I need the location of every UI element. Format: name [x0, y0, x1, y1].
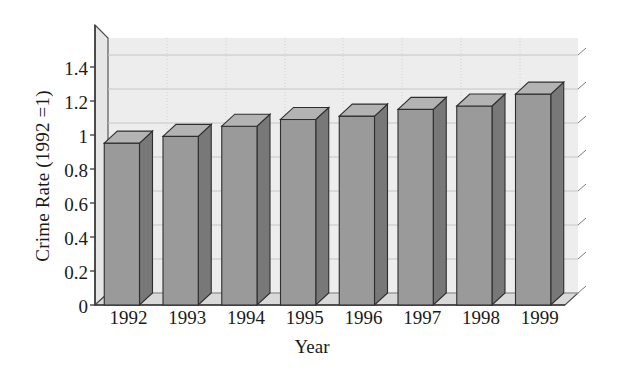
bar-side-face [433, 97, 446, 305]
bar-front-face [398, 109, 433, 305]
bar-front-face [163, 136, 198, 305]
bar-chart: 1.4 1.2 1 0.8 0.6 0.4 0.2 0 199219931994… [0, 0, 624, 373]
bar-side-face [375, 104, 388, 305]
bar-1997 [398, 97, 446, 305]
bar-1998 [457, 94, 505, 305]
x-tick-label-1997: 1997 [392, 307, 452, 329]
bar-side-face [140, 131, 153, 305]
bar-side-face [257, 114, 270, 305]
x-tick-label-1994: 1994 [216, 307, 276, 329]
bar-front-face [104, 143, 139, 305]
bar-front-face [281, 119, 316, 305]
x-tick-label-1995: 1995 [275, 307, 335, 329]
bar-front-face [516, 94, 551, 305]
bar-front-face [457, 106, 492, 305]
bar-1993 [163, 124, 211, 305]
bar-side-face [198, 124, 211, 305]
bar-front-face [222, 126, 257, 305]
x-tick-label-1998: 1998 [451, 307, 511, 329]
right-axis-ticks [578, 48, 586, 293]
bar-1996 [339, 104, 387, 305]
bar-side-face [316, 107, 329, 305]
x-axis-title: Year [0, 336, 624, 358]
y-axis-title: Crime Rate (1992 =1) [32, 41, 54, 311]
x-tick-label-1996: 1996 [333, 307, 393, 329]
bar-1995 [281, 107, 329, 305]
bar-front-face [339, 116, 374, 305]
x-tick-label-1992: 1992 [98, 307, 158, 329]
bar-1999 [516, 82, 564, 305]
bar-1994 [222, 114, 270, 305]
bar-side-face [492, 94, 505, 305]
x-tick-label-1999: 1999 [510, 307, 570, 329]
bar-1992 [104, 131, 152, 305]
bar-side-face [551, 82, 564, 305]
x-tick-label-1993: 1993 [157, 307, 217, 329]
